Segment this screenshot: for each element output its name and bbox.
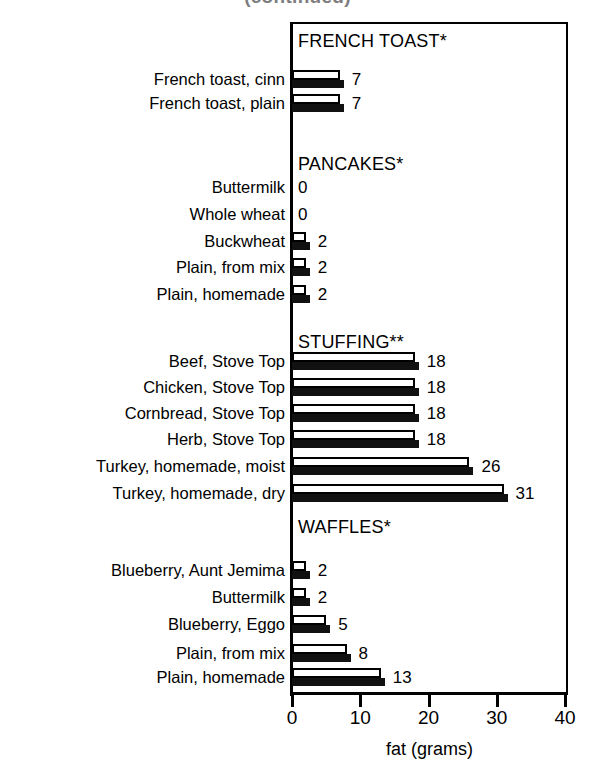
category-label: French toast, plain xyxy=(0,95,285,111)
section-header: STUFFING** xyxy=(298,333,404,351)
bar-value-label: 18 xyxy=(427,379,446,396)
bar-group xyxy=(292,70,346,89)
fat-grams-bar-chart: (continued) FRENCH TOAST*French toast, c… xyxy=(0,0,595,774)
category-label: Plain, homemade xyxy=(0,669,285,685)
category-label: Chicken, Stove Top xyxy=(0,379,285,395)
category-label: Blueberry, Eggo xyxy=(0,616,285,632)
bar-value-label: 26 xyxy=(481,458,500,475)
x-axis-tick xyxy=(291,695,294,707)
section-header: WAFFLES* xyxy=(298,518,391,536)
bar-outline-segment xyxy=(292,232,306,242)
bar-value-label: 5 xyxy=(338,616,347,633)
category-label: Whole wheat xyxy=(0,206,285,222)
x-axis-tick xyxy=(428,695,431,707)
bar-value-label: 7 xyxy=(352,71,361,88)
x-axis-tick-label: 40 xyxy=(545,708,585,727)
bar-outline-segment xyxy=(292,430,415,440)
bar-filled-segment xyxy=(292,80,344,88)
bar-outline-segment xyxy=(292,352,415,362)
bar-group xyxy=(292,352,421,371)
category-label: Plain, from mix xyxy=(0,259,285,275)
bar-value-label: 18 xyxy=(427,431,446,448)
bar-value-label: 2 xyxy=(318,259,327,276)
bar-outline-segment xyxy=(292,484,504,494)
bar-value-label: 2 xyxy=(318,589,327,606)
bar-outline-segment xyxy=(292,404,415,414)
x-axis-tick xyxy=(359,695,362,707)
bar-filled-segment xyxy=(292,467,473,475)
x-axis-tick-label: 0 xyxy=(272,708,312,727)
chart-title: (continued) xyxy=(0,0,595,8)
bar-filled-segment xyxy=(292,242,310,250)
bar-filled-segment xyxy=(292,678,385,686)
bar-group xyxy=(292,615,332,634)
bar-outline-segment xyxy=(292,258,306,268)
bar-value-label: 7 xyxy=(352,95,361,112)
category-label: Buckwheat xyxy=(0,233,285,249)
bar-outline-segment xyxy=(292,668,381,678)
x-axis-tick xyxy=(564,695,567,707)
bar-filled-segment xyxy=(292,104,344,112)
category-label: Blueberry, Aunt Jemima xyxy=(0,562,285,578)
category-label: French toast, cinn xyxy=(0,71,285,87)
bar-value-label: 0 xyxy=(298,206,307,223)
category-label: Plain, homemade xyxy=(0,286,285,302)
bar-group xyxy=(292,430,421,449)
bar-group xyxy=(292,285,312,304)
category-label: Cornbread, Stove Top xyxy=(0,405,285,421)
bar-filled-segment xyxy=(292,598,310,606)
bar-outline-segment xyxy=(292,561,306,571)
bar-filled-segment xyxy=(292,414,419,422)
bar-filled-segment xyxy=(292,494,508,502)
bar-filled-segment xyxy=(292,295,310,303)
x-axis-tick-label: 30 xyxy=(477,708,517,727)
category-label: Plain, from mix xyxy=(0,645,285,661)
bar-value-label: 18 xyxy=(427,405,446,422)
bar-filled-segment xyxy=(292,362,419,370)
bar-outline-segment xyxy=(292,615,326,625)
category-label: Turkey, homemade, moist xyxy=(0,458,285,474)
x-axis-title: fat (grams) xyxy=(291,740,568,758)
bar-value-label: 2 xyxy=(318,286,327,303)
bar-outline-segment xyxy=(292,378,415,388)
x-axis-tick-label: 10 xyxy=(340,708,380,727)
category-label: Beef, Stove Top xyxy=(0,353,285,369)
bar-outline-segment xyxy=(292,457,469,467)
bar-filled-segment xyxy=(292,388,419,396)
bar-filled-segment xyxy=(292,625,330,633)
bar-filled-segment xyxy=(292,654,351,662)
bar-outline-segment xyxy=(292,70,340,80)
bar-filled-segment xyxy=(292,440,419,448)
bar-group xyxy=(292,484,510,503)
bar-group xyxy=(292,378,421,397)
bar-outline-segment xyxy=(292,285,306,295)
category-label: Buttermilk xyxy=(0,179,285,195)
category-label: Herb, Stove Top xyxy=(0,431,285,447)
bar-value-label: 0 xyxy=(298,179,307,196)
bar-value-label: 2 xyxy=(318,233,327,250)
bar-outline-segment xyxy=(292,94,340,104)
bar-group xyxy=(292,588,312,607)
bar-group xyxy=(292,561,312,580)
bar-value-label: 18 xyxy=(427,353,446,370)
bar-outline-segment xyxy=(292,644,347,654)
bar-value-label: 31 xyxy=(516,485,535,502)
bar-group xyxy=(292,457,475,476)
bar-filled-segment xyxy=(292,268,310,276)
bar-filled-segment xyxy=(292,571,310,579)
category-label: Buttermilk xyxy=(0,589,285,605)
bar-group xyxy=(292,644,353,663)
section-header: PANCAKES* xyxy=(298,155,404,173)
category-label: Turkey, homemade, dry xyxy=(0,485,285,501)
bar-value-label: 13 xyxy=(393,669,412,686)
bar-value-label: 8 xyxy=(359,645,368,662)
bar-group xyxy=(292,404,421,423)
x-axis-tick xyxy=(496,695,499,707)
x-axis-tick-label: 20 xyxy=(409,708,449,727)
bar-group xyxy=(292,668,387,687)
section-header: FRENCH TOAST* xyxy=(298,32,447,50)
bar-value-label: 2 xyxy=(318,562,327,579)
bar-outline-segment xyxy=(292,588,306,598)
bar-group xyxy=(292,94,346,113)
bar-group xyxy=(292,232,312,251)
